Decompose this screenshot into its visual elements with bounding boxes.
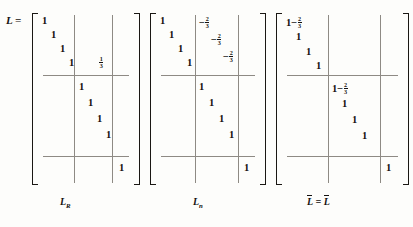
cell-ln-6: 1: [219, 114, 224, 125]
cell-lr-1: 1: [51, 30, 56, 41]
hrule-lbar-1: [287, 75, 398, 76]
cell-lbar-frac-0: 1−23: [286, 16, 302, 30]
bracket-left-lbar: [276, 13, 282, 185]
bracket-right-lr: [134, 13, 140, 185]
vrule-ln-1: [195, 15, 196, 183]
cell-ln-frac-1: −23: [211, 33, 222, 47]
hrule-ln-1: [161, 75, 255, 76]
cell-ln-5: 1: [209, 98, 214, 109]
vrule-ln-2: [238, 15, 239, 183]
cell-lbar-5: 1: [342, 99, 347, 110]
label-ln-sub: n: [199, 202, 203, 209]
cell-ln-4: 1: [199, 82, 204, 93]
matrix-lr-body: 1 1 1 1 13 1 1 1 1 1: [40, 13, 132, 185]
cell-lbar-6: 1: [352, 115, 357, 126]
bracket-left-ln: [150, 13, 156, 185]
matrix-lbar-body: 1−23 1 1 1 1−23 1 1 1 1: [284, 13, 401, 185]
cell-ln-7: 1: [229, 130, 234, 141]
cell-lr-6: 1: [97, 114, 102, 125]
cell-lbar-8: 1: [386, 163, 391, 174]
label-lbar-rhs: =: [316, 196, 322, 207]
cell-lbar-3: 1: [316, 61, 321, 72]
cell-lr-3: 1: [69, 58, 74, 69]
vrule-lbar-2: [380, 15, 381, 183]
vrule-lr-1: [74, 15, 75, 183]
cell-ln-8: 1: [244, 163, 249, 174]
bracket-right-lbar: [403, 13, 409, 185]
cell-lbar-7: 1: [362, 131, 367, 142]
bracket-left-lr: [32, 13, 38, 185]
cell-ln-0: 1: [160, 16, 165, 27]
cell-lr-7: 1: [106, 130, 111, 141]
bracket-right-ln: [260, 13, 266, 185]
cell-lbar-1: 1: [296, 32, 301, 43]
matrix-ln-body: 1 1 1 1 −23 −23 −23 1 1 1 1 1: [158, 13, 258, 185]
equation-canvas: L = 1 1 1 1 13 1 1 1 1 1: [0, 0, 413, 227]
cell-ln-2: 1: [178, 44, 183, 55]
cell-ln-frac-2: −23: [223, 50, 234, 64]
cell-ln-1: 1: [169, 30, 174, 41]
cell-lbar-frac-1: 1−23: [332, 82, 348, 96]
label-lr: LR: [60, 196, 71, 209]
hrule-ln-2: [161, 156, 255, 157]
hrule-lr-1: [43, 75, 129, 76]
cell-lr-0: 1: [42, 16, 47, 27]
matrix-ln: 1 1 1 1 −23 −23 −23 1 1 1 1 1: [150, 13, 266, 185]
hrule-lbar-2: [287, 156, 398, 157]
label-lr-sub: R: [66, 202, 71, 209]
cell-lr-8: 1: [119, 163, 124, 174]
hrule-lr-2: [43, 156, 129, 157]
label-ln: Ln: [193, 196, 203, 209]
cell-lr-4: 1: [79, 82, 84, 93]
label-lbar-base: L: [307, 196, 313, 207]
lead-label: L =: [6, 14, 21, 26]
cell-lr-5: 1: [88, 98, 93, 109]
cell-lr-2: 1: [60, 44, 65, 55]
cell-ln-frac-0: −23: [199, 16, 210, 30]
vrule-lr-2: [112, 15, 113, 183]
cell-lr-frac: 13: [99, 56, 104, 70]
cell-ln-3: 1: [187, 58, 192, 69]
vrule-lbar-1: [328, 15, 329, 183]
cell-lbar-2: 1: [306, 47, 311, 58]
matrix-lr: 1 1 1 1 13 1 1 1 1 1: [32, 13, 140, 185]
matrix-lbar: 1−23 1 1 1 1−23 1 1 1 1: [276, 13, 409, 185]
label-lbar-equals-l: L = L: [307, 196, 330, 207]
label-lbar-rhs-l: L: [324, 196, 330, 207]
